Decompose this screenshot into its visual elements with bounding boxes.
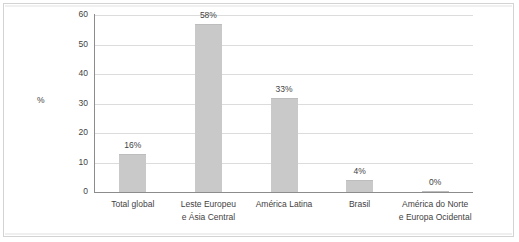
bar-value-label: 4% [330, 167, 390, 176]
bar [195, 24, 222, 192]
y-axis-tick-label: 40 [62, 69, 88, 78]
y-axis-tick-label: 50 [62, 40, 88, 49]
x-axis-category-label-line: e Ásia Central [148, 211, 268, 224]
y-axis-tick-label: 20 [62, 128, 88, 137]
bar-value-label: 33% [254, 85, 314, 94]
x-axis-category-label-line: e Europa Ocidental [375, 211, 495, 224]
bar [119, 154, 146, 192]
y-axis-tick-label: 60 [62, 10, 88, 19]
x-axis-line [95, 192, 473, 193]
bar-value-label: 58% [178, 11, 238, 20]
bar [422, 191, 449, 193]
y-axis-tick-label: 10 [62, 158, 88, 167]
bar [346, 180, 373, 192]
bar [271, 98, 298, 192]
y-axis-title: % [37, 96, 45, 105]
gridline [95, 74, 473, 75]
y-axis-tick-label: 0 [62, 187, 88, 196]
x-axis-category-label-line: América do Norte [375, 198, 495, 211]
bar-value-label: 0% [405, 178, 465, 187]
gridline [95, 45, 473, 46]
x-axis-category-label: América do Nortee Europa Ocidental [375, 198, 495, 223]
y-axis-tick-label: 30 [62, 99, 88, 108]
bar-value-label: 16% [103, 141, 163, 150]
gridline [95, 15, 473, 16]
plot-area [95, 15, 473, 192]
